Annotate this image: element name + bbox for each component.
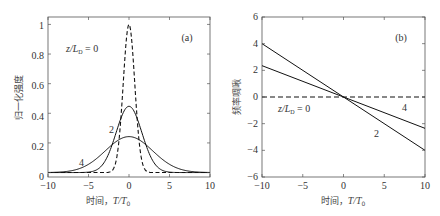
annotation-a-2: 2	[109, 124, 114, 135]
ylabel-a: 归一化强度	[13, 75, 24, 120]
curve-a-2	[48, 137, 210, 173]
ytick-a-1: 0.2	[32, 141, 45, 152]
annotation-a-4: 4	[79, 157, 84, 168]
xtick-b-4: 10	[420, 180, 430, 191]
ylabel-b: 频率啁啾	[231, 79, 242, 115]
ytick-a-5: 1	[39, 20, 44, 31]
ytick-b-4: −2	[247, 118, 258, 129]
xtick-a-4: 10	[205, 180, 215, 191]
annotation-b-z0: z/LD = 0	[277, 103, 310, 115]
annotation-b-4: 4	[402, 102, 407, 113]
xlabel-a: 时间，T/T0	[86, 195, 131, 207]
panel-label-a: (a)	[181, 32, 192, 44]
xtick-b-3: 5	[382, 180, 387, 191]
panel-a: 0 0.2 0.4 0.6 0.8 1 −10 −5 0 5 10 时间，T/T…	[13, 17, 215, 207]
annotation-a-z0: z/LD = 0	[65, 43, 98, 55]
ytick-b-2: 2	[253, 64, 258, 75]
figure: 0 0.2 0.4 0.6 0.8 1 −10 −5 0 5 10 时间，T/T…	[0, 0, 440, 216]
xtick-a-1: −5	[83, 180, 94, 191]
ytick-b-5: −4	[247, 144, 258, 155]
xtick-a-3: 5	[167, 180, 172, 191]
xtick-b-1: −5	[297, 180, 308, 191]
xlabel-b: 时间，T/T0	[321, 195, 366, 207]
curve-a-1	[48, 106, 210, 172]
ytick-a-2: 0.4	[32, 111, 45, 122]
panel-b: 6 4 2 0 −2 −4 −6 −10 −5 0 5 10 时间，T/T0 频…	[231, 11, 430, 207]
xtick-b-2: 0	[341, 180, 346, 191]
ytick-a-4: 0.8	[32, 50, 45, 61]
ytick-b-3: 0	[253, 91, 258, 102]
xtick-b-0: −10	[254, 180, 270, 191]
xtick-a-0: −10	[40, 180, 56, 191]
ytick-b-0: 6	[253, 11, 258, 22]
xtick-a-2: 0	[127, 180, 132, 191]
plot-b-curves	[262, 44, 425, 151]
ytick-a-3: 0.6	[32, 80, 45, 91]
panel-label-b: (b)	[395, 32, 407, 44]
ytick-b-1: 4	[253, 38, 258, 49]
annotation-b-2: 2	[374, 128, 379, 139]
